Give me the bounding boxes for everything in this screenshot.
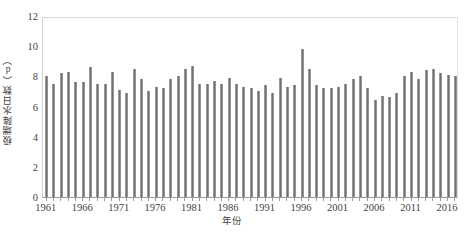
bar xyxy=(432,69,435,197)
bar xyxy=(104,84,107,197)
bar xyxy=(447,75,450,197)
bar xyxy=(74,82,77,197)
bar xyxy=(177,76,180,197)
bar xyxy=(286,87,289,197)
extreme-precipitation-days-bar-chart: 极端降水日数（d） 024681012 19611966197119761981… xyxy=(0,0,464,236)
x-axis-tick-labels: 1961196619711976198119861991199620012006… xyxy=(42,201,462,215)
bar xyxy=(301,49,304,197)
bar xyxy=(352,79,355,197)
x-axis-tick-label: 1986 xyxy=(208,201,248,214)
bar-series xyxy=(43,18,457,197)
bar xyxy=(191,66,194,197)
bar xyxy=(67,72,70,197)
y-axis-tick-label: 8 xyxy=(14,71,38,83)
bar xyxy=(308,69,311,197)
bar xyxy=(60,73,63,197)
bar xyxy=(89,67,92,197)
bar xyxy=(417,79,420,197)
bar xyxy=(322,88,325,197)
bar xyxy=(257,91,260,197)
bar xyxy=(140,79,143,197)
y-axis-tick-labels: 024681012 xyxy=(14,11,38,203)
bar xyxy=(410,72,413,197)
bar xyxy=(242,87,245,197)
bar xyxy=(169,79,172,197)
bar xyxy=(162,88,165,197)
x-axis-tick-label: 1966 xyxy=(62,201,102,214)
bar xyxy=(330,88,333,197)
bar xyxy=(45,76,48,197)
x-axis-tick-label: 1981 xyxy=(172,201,212,214)
bar xyxy=(155,87,158,197)
bar xyxy=(118,90,121,197)
bar xyxy=(337,87,340,197)
y-axis-tick-label: 12 xyxy=(14,11,38,23)
bar xyxy=(235,84,238,197)
bar xyxy=(213,81,216,197)
x-axis-tick-label: 1996 xyxy=(281,201,321,214)
bar xyxy=(111,72,114,197)
y-axis-tick-label: 10 xyxy=(14,41,38,53)
bar xyxy=(315,85,318,197)
x-axis-tick-label: 1991 xyxy=(245,201,285,214)
bar xyxy=(388,97,391,197)
bar xyxy=(439,73,442,197)
x-axis-tick-label: 1971 xyxy=(99,201,139,214)
bar xyxy=(147,91,150,197)
y-axis-tick-label: 4 xyxy=(14,132,38,144)
bar xyxy=(125,93,128,197)
bar xyxy=(279,78,282,197)
y-axis-tick-label: 2 xyxy=(14,162,38,174)
bar xyxy=(271,93,274,197)
bar xyxy=(395,93,398,197)
bar xyxy=(228,78,231,197)
bar xyxy=(454,76,457,197)
bar xyxy=(220,84,223,197)
bar xyxy=(374,100,377,197)
bar xyxy=(403,76,406,197)
bar xyxy=(425,70,428,197)
bar xyxy=(52,84,55,197)
bar xyxy=(381,96,384,197)
bar xyxy=(293,85,296,197)
bar xyxy=(184,69,187,197)
bar xyxy=(359,76,362,197)
bar xyxy=(344,84,347,197)
x-axis-tick-label: 2006 xyxy=(354,201,394,214)
bar xyxy=(198,84,201,197)
y-axis-title-label: 极端降水日数（d） xyxy=(4,55,14,145)
x-axis-title: 年份 xyxy=(0,215,464,227)
bar xyxy=(133,69,136,197)
plot-area xyxy=(42,17,458,198)
bar xyxy=(82,82,85,197)
bar xyxy=(264,85,267,197)
x-axis-tick-label: 2011 xyxy=(391,201,431,214)
y-axis-tick-label: 6 xyxy=(14,102,38,114)
x-axis-tick-label: 2001 xyxy=(318,201,358,214)
bar xyxy=(96,84,99,197)
bar xyxy=(206,84,209,197)
x-axis-tick-label: 2016 xyxy=(427,201,464,214)
x-axis-tick-label: 1961 xyxy=(26,201,66,214)
bar xyxy=(366,88,369,197)
bar xyxy=(250,88,253,197)
x-axis-tick-label: 1976 xyxy=(135,201,175,214)
